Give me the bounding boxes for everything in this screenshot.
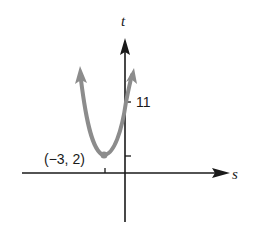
graph-svg [0,0,255,245]
vertex-point [101,152,108,159]
t-axis-label: t [121,14,125,29]
s-axis-label: s [232,167,238,182]
t-intercept-label: 11 [136,95,151,109]
vertex-label: (−3, 2) [44,152,85,166]
graph-canvas: t s 11 (−3, 2) [0,0,255,245]
